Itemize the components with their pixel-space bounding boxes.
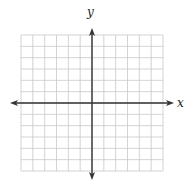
axes — [10, 28, 174, 180]
x-axis-label: x — [177, 97, 184, 109]
coordinate-plane — [0, 0, 191, 186]
y-axis-label: y — [87, 6, 94, 18]
